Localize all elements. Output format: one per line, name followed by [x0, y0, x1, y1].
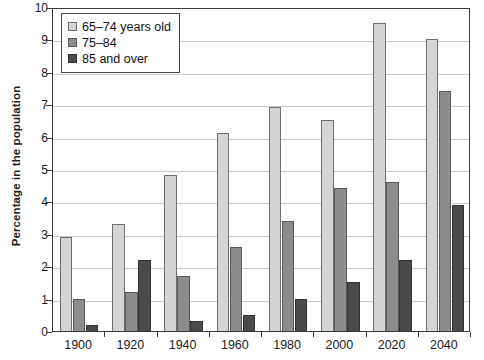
legend-item: 85 and over — [68, 51, 171, 66]
bar-1900-series0 — [60, 237, 73, 331]
y-axis-tick-label: 8 — [26, 66, 48, 80]
x-axis-tickmark — [313, 332, 314, 337]
bar-1940-series0 — [164, 175, 177, 331]
bar-2040-series2 — [452, 205, 465, 331]
bar-2020-series0 — [373, 23, 386, 331]
y-axis-tickmark — [46, 300, 52, 301]
y-axis-tick-labels: 012345678910 — [26, 0, 48, 340]
bar-1960-series1 — [230, 247, 243, 331]
y-axis-tickmark — [46, 170, 52, 171]
bar-2020-series2 — [399, 260, 412, 331]
x-axis-tickmark — [470, 332, 471, 337]
y-axis-tick-label: 1 — [26, 293, 48, 307]
y-axis-tickmark — [46, 202, 52, 203]
legend-item: 65–74 years old — [68, 19, 171, 34]
x-axis-tick-label: 2000 — [325, 338, 353, 352]
y-axis-tick-label: 5 — [26, 163, 48, 177]
bar-1920-series2 — [138, 260, 151, 331]
legend-swatch-icon — [68, 38, 77, 47]
legend: 65–74 years old75–8485 and over — [61, 13, 180, 73]
legend-item-label: 85 and over — [82, 52, 148, 66]
x-axis-tickmark — [366, 332, 367, 337]
x-axis-tick-label: 1900 — [64, 338, 92, 352]
legend-item-label: 65–74 years old — [82, 20, 171, 34]
bar-2000-series2 — [347, 282, 360, 331]
x-axis-tick-labels: 19001920194019601980200020202040 — [52, 338, 470, 360]
bar-1960-series2 — [243, 315, 256, 331]
bar-1980-series2 — [295, 299, 308, 331]
y-axis-tickmark — [46, 73, 52, 74]
y-axis-tickmark — [46, 332, 52, 333]
y-axis-tick-label: 9 — [26, 33, 48, 47]
bar-1920-series0 — [112, 224, 125, 331]
x-axis-tickmark — [157, 332, 158, 337]
y-axis-tickmark — [46, 40, 52, 41]
y-axis-tick-label: 10 — [26, 1, 48, 15]
y-axis-title-text: Percentage in the population — [10, 86, 22, 247]
bar-1940-series1 — [177, 276, 190, 331]
bar-2000-series1 — [334, 188, 347, 331]
y-axis-tick-label: 4 — [26, 195, 48, 209]
bar-1900-series1 — [73, 299, 86, 331]
bar-2020-series1 — [386, 182, 399, 331]
bar-1900-series2 — [86, 325, 99, 331]
y-axis-tickmark — [46, 8, 52, 9]
x-axis-tick-label: 2020 — [378, 338, 406, 352]
y-axis-tick-label: 6 — [26, 131, 48, 145]
legend-item: 75–84 — [68, 35, 171, 50]
bar-1920-series1 — [125, 292, 138, 331]
bar-2040-series1 — [439, 91, 452, 331]
y-axis-tickmark — [46, 235, 52, 236]
bar-1980-series0 — [269, 107, 282, 331]
x-axis-tickmark — [104, 332, 105, 337]
legend-item-label: 75–84 — [82, 36, 117, 50]
bar-chart: Percentage in the population 01234567891… — [0, 0, 484, 360]
y-axis-tickmark — [46, 267, 52, 268]
bar-1980-series1 — [282, 221, 295, 331]
y-axis-tickmark — [46, 138, 52, 139]
x-axis-tick-label: 1980 — [273, 338, 301, 352]
bar-1960-series0 — [217, 133, 230, 331]
bar-1940-series2 — [190, 321, 203, 331]
x-axis-tickmark — [418, 332, 419, 337]
y-axis-tick-label: 7 — [26, 98, 48, 112]
y-axis-tickmark — [46, 105, 52, 106]
x-axis-tickmark — [261, 332, 262, 337]
x-axis-tick-label: 2040 — [430, 338, 458, 352]
bar-2040-series0 — [426, 39, 439, 331]
legend-swatch-icon — [68, 22, 77, 31]
y-axis-tick-label: 3 — [26, 228, 48, 242]
y-axis-tick-label: 0 — [26, 325, 48, 339]
x-axis-tick-label: 1920 — [116, 338, 144, 352]
bar-2000-series0 — [321, 120, 334, 331]
y-axis-tick-label: 2 — [26, 260, 48, 274]
x-axis-tickmark — [209, 332, 210, 337]
legend-swatch-icon — [68, 54, 77, 63]
x-axis-tick-label: 1940 — [169, 338, 197, 352]
x-axis-tick-label: 1960 — [221, 338, 249, 352]
